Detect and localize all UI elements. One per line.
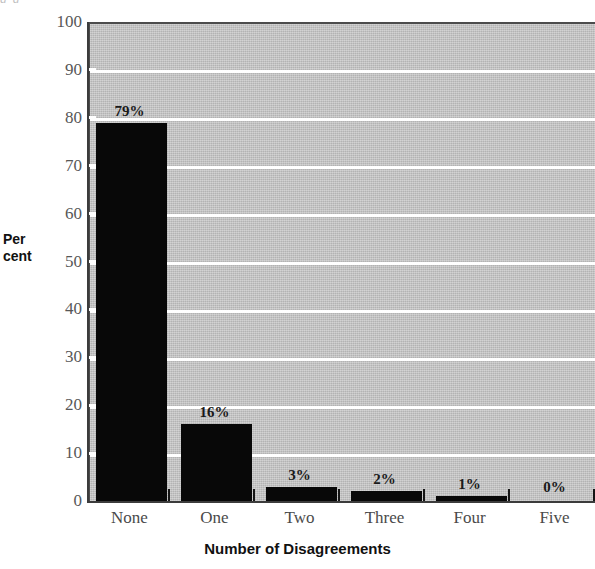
y-tick-mark-60 <box>89 212 96 215</box>
x-tick-mark-0 <box>168 489 170 501</box>
x-category-label-none: None <box>94 508 165 528</box>
y-tick-mark-70 <box>89 164 96 167</box>
y-tick-label-30: 30 <box>38 348 82 365</box>
bar-none <box>96 123 167 501</box>
y-tick-mark-10 <box>89 452 96 455</box>
x-category-label-three: Three <box>349 508 420 528</box>
bar-three <box>351 491 422 501</box>
value-label-none: 79% <box>94 104 165 119</box>
value-label-two: 3% <box>264 468 335 483</box>
y-tick-mark-30 <box>89 356 96 359</box>
value-label-three: 2% <box>349 472 420 487</box>
value-label-five: 0% <box>519 480 590 495</box>
y-tick-label-80: 80 <box>38 109 82 126</box>
cut-off-caption: g g <box>0 0 595 3</box>
bar-two <box>266 487 337 501</box>
y-tick-label-70: 70 <box>38 157 82 174</box>
y-tick-label-60: 60 <box>38 205 82 222</box>
y-tick-label-40: 40 <box>38 300 82 317</box>
y-tick-label-10: 10 <box>38 444 82 461</box>
x-tick-mark-4 <box>508 489 510 501</box>
x-category-label-four: Four <box>434 508 505 528</box>
bars-layer <box>90 24 595 501</box>
y-tick-label-20: 20 <box>38 396 82 413</box>
y-tick-mark-90 <box>89 68 96 71</box>
x-tick-mark-1 <box>253 489 255 501</box>
value-label-one: 16% <box>179 405 250 420</box>
x-category-label-one: One <box>179 508 250 528</box>
y-axis-title-line1: Per <box>3 231 47 248</box>
chart-figure: g g 0102030405060708090100 NoneOneTwoThr… <box>0 0 595 569</box>
y-tick-mark-20 <box>89 404 96 407</box>
y-tick-label-90: 90 <box>38 61 82 78</box>
plot-area <box>88 22 595 501</box>
x-axis-title: Number of Disagreements <box>0 540 595 558</box>
y-tick-mark-40 <box>89 308 96 311</box>
x-tick-mark-2 <box>338 489 340 501</box>
y-axis-title: Per cent <box>3 231 47 265</box>
value-label-four: 1% <box>434 477 505 492</box>
y-tick-mark-50 <box>89 260 96 263</box>
bar-one <box>181 424 252 501</box>
y-axis-title-line2: cent <box>3 248 47 265</box>
y-tick-label-0: 0 <box>38 492 82 509</box>
x-category-label-two: Two <box>264 508 335 528</box>
x-axis-line <box>88 501 595 503</box>
y-tick-label-100: 100 <box>38 13 82 30</box>
x-category-label-five: Five <box>519 508 590 528</box>
x-tick-mark-3 <box>423 489 425 501</box>
